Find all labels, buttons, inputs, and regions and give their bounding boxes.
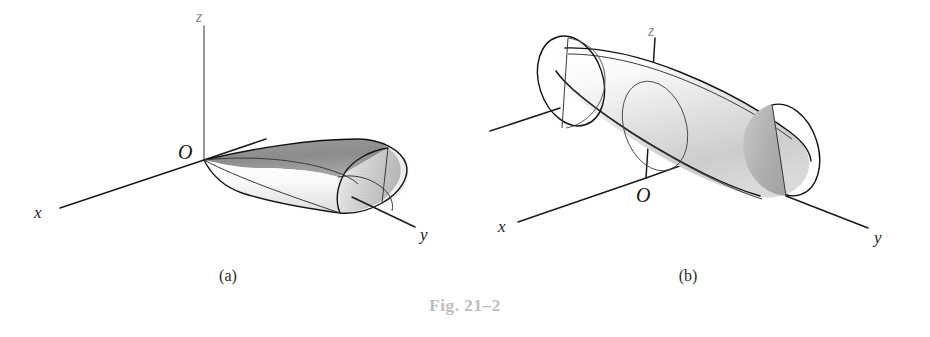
panel-a-origin-label: O — [178, 141, 192, 163]
panel-a-sub-caption: (a) — [219, 267, 237, 285]
panel-b-x-axis-far — [490, 108, 560, 131]
panel-b-y-label: y — [872, 228, 882, 247]
panel-b-y-axis-far — [786, 196, 868, 228]
panel-b: z x y O (b) — [490, 22, 882, 285]
panel-b-x-axis-near — [518, 178, 646, 222]
panel-a-x-label: x — [33, 203, 42, 222]
panel-b-sub-caption: (b) — [679, 267, 698, 285]
figure-svg: z x y O (a) — [0, 0, 930, 337]
panel-b-origin-label: O — [636, 184, 650, 206]
figure-container: z x y O (a) — [0, 0, 930, 337]
figure-caption: Fig. 21–2 — [429, 296, 501, 315]
panel-b-z-label: z — [647, 22, 655, 39]
panel-a: z x y O (a) — [33, 8, 428, 285]
panel-b-x-label: x — [497, 217, 506, 236]
panel-a-y-label: y — [418, 225, 428, 244]
panel-a-z-label: z — [195, 8, 203, 25]
panel-a-x-axis — [60, 160, 204, 208]
